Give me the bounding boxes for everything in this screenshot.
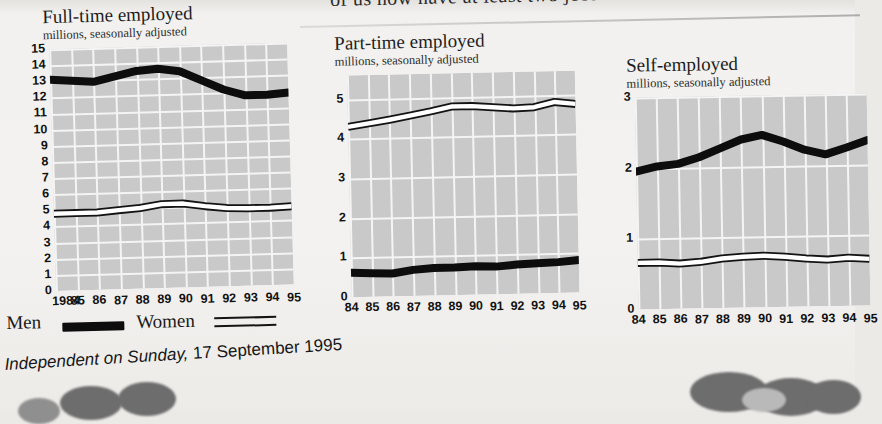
plot-area	[347, 71, 580, 298]
y-axis-tick-label: 15	[19, 41, 45, 56]
x-axis-tick-label: 93	[531, 298, 548, 312]
x-axis-tick-label: 89	[448, 299, 465, 313]
y-axis-tick-label: 2	[25, 251, 51, 266]
x-axis-tick-label: 85	[71, 293, 88, 307]
y-axis-tick-label: 4	[24, 219, 50, 234]
chart-panel-2: Part-time employedmillions, seasonally a…	[318, 28, 600, 318]
legend-swatch-men	[62, 321, 124, 331]
x-axis-tick-label: 93	[821, 311, 838, 325]
legend-label-men: Men	[6, 311, 41, 334]
series-lines	[49, 42, 294, 291]
x-axis-tick-label: 93	[244, 291, 261, 305]
y-axis-tick-label: 11	[21, 106, 47, 121]
y-axis-tick-label: 3	[611, 90, 631, 104]
scan-artefact-blob	[742, 388, 786, 412]
y-axis-tick-label: 7	[23, 170, 49, 185]
plot-area	[49, 42, 294, 291]
source-date: 17 September 1995	[192, 335, 342, 363]
x-axis-tick-label: 86	[386, 300, 403, 314]
scan-artefact-blob	[18, 398, 60, 424]
legend-label-women: Women	[136, 310, 195, 333]
series-lines	[635, 93, 871, 309]
x-axis-tick-label: 86	[674, 312, 691, 326]
x-axis-tick-label: 92	[222, 291, 239, 305]
x-axis-tick-label: 90	[179, 292, 196, 306]
x-axis-tick-label: 91	[200, 291, 217, 305]
x-axis-tick-label: 84	[631, 312, 648, 326]
x-axis-tick-label: 95	[287, 290, 304, 304]
series-lines	[347, 71, 580, 298]
headline-fragment: of us now have at least two jobs	[330, 0, 882, 11]
y-axis-tick-label: 2	[612, 160, 632, 174]
y-axis-tick-label: 3	[323, 170, 345, 184]
x-axis-tick-label: 87	[407, 300, 424, 314]
x-axis-tick-label: 85	[653, 312, 670, 326]
x-axis-tick-label: 88	[136, 292, 153, 306]
x-axis-tick-label: 92	[510, 299, 527, 313]
y-axis-tick-label: 1	[25, 267, 51, 282]
x-axis-tick-label: 87	[114, 293, 131, 307]
y-axis-tick-label: 4	[322, 131, 344, 145]
x-axis-tick-label: 87	[695, 312, 712, 326]
plot-area	[635, 93, 871, 309]
legend-swatch-women	[214, 316, 276, 328]
line-series-men	[50, 65, 289, 101]
y-axis-tick-label: 10	[21, 122, 47, 137]
y-axis-tick-label: 2	[324, 210, 346, 224]
y-axis-tick-label: 5	[23, 202, 49, 217]
y-axis-tick-label: 14	[19, 57, 45, 72]
x-axis-tick-label: 89	[737, 312, 754, 326]
scan-artefact-blob	[806, 380, 861, 414]
line-series-men	[635, 133, 868, 172]
x-axis-tick-label: 89	[157, 292, 174, 306]
x-axis-tick-label: 90	[469, 299, 486, 313]
y-axis-tick-label: 8	[22, 154, 48, 169]
plot-wrapper: 0123848586878889909192939495	[609, 87, 882, 330]
chart-panel-3: Self-employedmillions, seasonally adjust…	[608, 51, 882, 330]
y-axis-tick-label: 1	[325, 250, 347, 264]
y-axis-tick-label: 13	[20, 73, 46, 88]
x-axis-tick-label: 84	[345, 300, 362, 314]
plot-wrapper: 0123456789101112131415198485868788899091…	[19, 36, 314, 312]
scan-artefact-blob	[60, 386, 122, 420]
source-publication: Independent on Sunday,	[4, 344, 189, 374]
x-axis-tick-label: 86	[92, 293, 109, 307]
x-axis-tick-label: 95	[863, 311, 880, 325]
y-axis-tick-label: 6	[23, 186, 49, 201]
line-series-men	[351, 260, 579, 274]
source-footer: Independent on Sunday, 17 September 1995	[4, 335, 343, 375]
line-series-women-fill	[348, 101, 576, 126]
x-axis-tick-label: 88	[427, 299, 444, 313]
y-axis-tick-label: 5	[321, 91, 343, 105]
x-axis-tick-label: 94	[265, 290, 282, 304]
x-axis-tick-label: 94	[552, 298, 569, 312]
y-axis-tick-label: 0	[26, 283, 52, 298]
x-axis-tick-label: 88	[716, 312, 733, 326]
y-axis-tick-label: 1	[613, 231, 633, 245]
top-rule-divider	[300, 14, 860, 28]
x-axis-tick-label: 95	[573, 298, 590, 312]
x-axis-tick-label: 92	[800, 311, 817, 325]
x-axis-tick-label: 85	[365, 300, 382, 314]
x-axis-tick-label: 90	[758, 312, 775, 326]
y-axis-tick-label: 9	[22, 138, 48, 153]
x-axis-tick-label: 91	[779, 311, 796, 325]
y-axis-tick-label: 12	[20, 90, 46, 105]
y-axis-tick-label: 3	[24, 235, 50, 250]
x-axis-tick-label: 91	[490, 299, 507, 313]
plot-wrapper: 012345848586878889909192939495	[319, 64, 600, 318]
chart-panel-1: Full-time employedmillions, seasonally a…	[18, 0, 314, 312]
x-axis-tick-label: 94	[842, 311, 859, 325]
scan-artefact-blob	[118, 382, 176, 416]
